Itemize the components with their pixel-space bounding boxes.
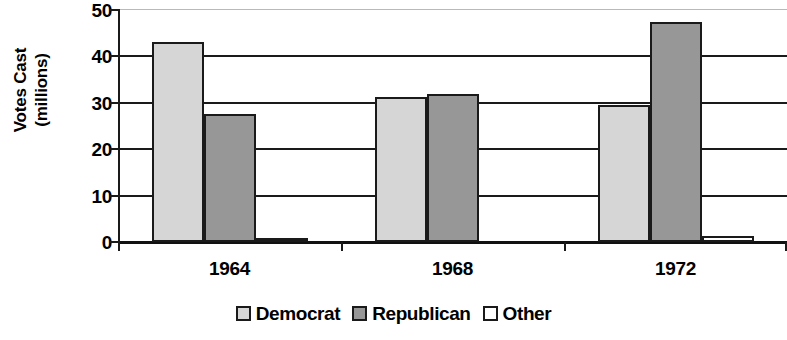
legend-entry-republican: Republican (352, 304, 470, 323)
legend-label-democrat: Democrat (256, 304, 340, 323)
legend-entry-other: Other (483, 304, 552, 323)
bar-republican-1972 (650, 22, 702, 242)
plot-area (118, 10, 787, 242)
y-axis-tick-mark (110, 9, 120, 11)
y-axis-tick-label: 40 (66, 47, 112, 66)
x-axis-tick-mark (564, 242, 566, 251)
y-axis-title: Votes Cast (millions) (0, 0, 64, 200)
y-axis-title-line-2: (millions) (32, 53, 53, 127)
y-axis-tick-label: 10 (66, 186, 112, 205)
y-axis-tick-mark (110, 195, 120, 197)
x-axis-tick-mark (341, 242, 343, 251)
legend-entry-democrat: Democrat (236, 304, 340, 323)
y-axis-tick-mark (110, 102, 120, 104)
bar-chart: Votes Cast (millions) 01020304050 196419… (0, 0, 787, 340)
x-axis-tick-label-1968: 1968 (393, 258, 513, 280)
y-axis-tick-label: 30 (66, 93, 112, 112)
x-axis-tick-marks (118, 242, 787, 252)
x-axis-tick-label-1972: 1972 (616, 258, 736, 280)
legend-label-republican: Republican (372, 304, 470, 323)
y-axis-tick-label: 0 (66, 233, 112, 252)
x-axis-tick-label-1964: 1964 (170, 258, 290, 280)
x-axis-tick-mark (118, 242, 120, 251)
y-axis-tick-labels: 01020304050 (66, 0, 112, 250)
y-axis-tick-mark (110, 55, 120, 57)
legend-swatch-republican (352, 306, 367, 321)
legend-swatch-other (483, 306, 498, 321)
legend-swatch-democrat (236, 306, 251, 321)
bar-republican-1968 (427, 94, 479, 242)
y-axis-tick-mark (110, 148, 120, 150)
bar-republican-1964 (204, 114, 256, 242)
bar-democrat-1968 (375, 97, 427, 242)
chart-legend: DemocratRepublicanOther (0, 304, 787, 323)
x-axis-tick-labels: 196419681972 (118, 258, 787, 286)
bar-democrat-1964 (152, 42, 204, 242)
bar-democrat-1972 (598, 105, 650, 242)
y-axis-title-line-1: Votes Cast (11, 48, 32, 133)
y-axis-tick-label: 20 (66, 140, 112, 159)
bars-layer (118, 10, 787, 242)
y-axis-tick-label: 50 (66, 1, 112, 20)
legend-label-other: Other (503, 304, 552, 323)
